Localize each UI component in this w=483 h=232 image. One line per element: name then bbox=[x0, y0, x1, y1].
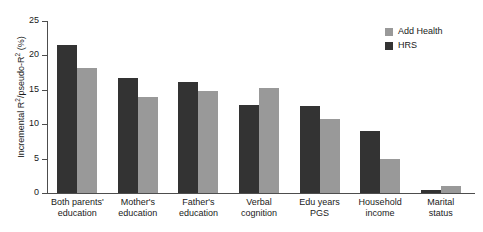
legend-swatch-add-health-icon bbox=[385, 28, 393, 36]
y-axis-tick-label: 15 bbox=[0, 85, 39, 94]
y-axis-tick-label: 25 bbox=[0, 16, 39, 25]
x-axis-category-label-line: PGS bbox=[289, 208, 350, 219]
bar-group bbox=[57, 21, 97, 193]
bar-hrs bbox=[178, 82, 198, 193]
x-axis-category-label-line: status bbox=[410, 208, 471, 219]
y-axis-tick-label: 10 bbox=[0, 119, 39, 128]
legend-item-hrs: HRS bbox=[385, 40, 443, 51]
y-axis-tick-label-text: 25 bbox=[3, 16, 39, 25]
bar-hrs bbox=[421, 190, 441, 193]
bar-add-health bbox=[380, 159, 400, 193]
legend-swatch-hrs-icon bbox=[385, 42, 393, 50]
y-axis-tick-label-text: 10 bbox=[3, 119, 39, 128]
y-axis-title-superscript-1: 2 bbox=[14, 98, 21, 102]
x-axis-category-label: Both parents'education bbox=[47, 197, 108, 219]
chart-legend: Add Health HRS bbox=[385, 26, 443, 54]
bar-group bbox=[178, 21, 218, 193]
y-axis-tick-label-text: 20 bbox=[3, 50, 39, 59]
bar-group bbox=[300, 21, 340, 193]
x-axis-category-label-line: education bbox=[168, 208, 229, 219]
x-axis-category-label-line: Edu years bbox=[289, 197, 350, 208]
bar-group bbox=[239, 21, 279, 193]
x-axis-category-label: Edu yearsPGS bbox=[289, 197, 350, 219]
x-axis-line bbox=[47, 193, 475, 194]
bar-add-health bbox=[441, 186, 461, 193]
x-axis-category-label-line: cognition bbox=[229, 208, 290, 219]
y-axis-tick-label: 5 bbox=[0, 154, 39, 163]
bar-add-health bbox=[259, 88, 279, 193]
y-axis-tick-label-text: 15 bbox=[3, 85, 39, 94]
x-axis-category-label: Verbalcognition bbox=[229, 197, 290, 219]
x-axis-category-label-line: education bbox=[108, 208, 169, 219]
x-axis-category-label-line: Household bbox=[350, 197, 411, 208]
x-axis-category-label-line: education bbox=[47, 208, 108, 219]
legend-item-add-health: Add Health bbox=[385, 26, 443, 37]
y-axis-tick-label-text: 0 bbox=[3, 188, 39, 197]
y-axis-title: Incremental R2/pseudo-R2 (%) bbox=[14, 2, 28, 192]
x-axis-category-label-line: Both parents' bbox=[47, 197, 108, 208]
bar-hrs bbox=[300, 106, 320, 193]
x-axis-category-label-line: Father's bbox=[168, 197, 229, 208]
bar-hrs bbox=[360, 131, 380, 193]
legend-label-add-health: Add Health bbox=[398, 27, 443, 36]
y-axis-tick bbox=[42, 193, 47, 194]
x-axis-category-label-line: Marital bbox=[410, 197, 471, 208]
bar-hrs bbox=[57, 45, 77, 193]
x-axis-category-label: Mother'seducation bbox=[108, 197, 169, 219]
legend-label-hrs: HRS bbox=[398, 41, 417, 50]
y-axis-title-text-part1: Incremental R bbox=[16, 102, 26, 158]
bar-add-health bbox=[320, 119, 340, 193]
bar-hrs bbox=[118, 78, 138, 193]
bar-chart: Incremental R2/pseudo-R2 (%) 0510152025 … bbox=[0, 0, 483, 232]
bar-hrs bbox=[239, 105, 259, 193]
bar-group bbox=[118, 21, 158, 193]
x-axis-category-label: Maritalstatus bbox=[410, 197, 471, 219]
x-axis-category-label: Father'seducation bbox=[168, 197, 229, 219]
bar-add-health bbox=[77, 68, 97, 193]
x-axis-category-label: Householdincome bbox=[350, 197, 411, 219]
y-axis-tick-label: 0 bbox=[0, 188, 39, 197]
y-axis-tick-label-text: 5 bbox=[3, 154, 39, 163]
bar-add-health bbox=[138, 97, 158, 193]
x-axis-category-label-line: Verbal bbox=[229, 197, 290, 208]
x-axis-category-label-line: income bbox=[350, 208, 411, 219]
y-axis-tick-label: 20 bbox=[0, 50, 39, 59]
x-axis-category-label-line: Mother's bbox=[108, 197, 169, 208]
bar-add-health bbox=[198, 91, 218, 193]
